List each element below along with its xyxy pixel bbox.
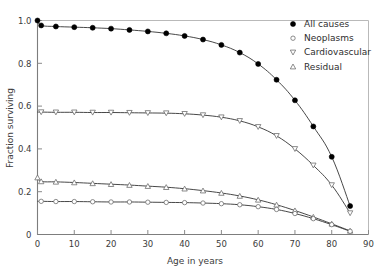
marker-filled-circle xyxy=(53,24,58,29)
x-tick-label: 50 xyxy=(216,239,227,249)
marker-open-circle xyxy=(127,200,131,204)
marker-filled-circle xyxy=(291,22,296,27)
marker-filled-circle xyxy=(127,27,132,32)
marker-open-circle xyxy=(146,200,150,204)
x-tick-label: 60 xyxy=(253,239,264,249)
marker-open-circle xyxy=(311,216,315,220)
x-tick-label: 90 xyxy=(363,239,374,249)
y-tick-label: 0.6 xyxy=(18,101,32,111)
x-tick-label: 40 xyxy=(179,239,190,249)
marker-filled-circle xyxy=(348,204,353,209)
legend-item-label: Cardiovascular xyxy=(304,47,371,57)
marker-open-circle xyxy=(90,200,94,204)
marker-open-circle xyxy=(72,199,76,203)
y-tick-label: 1.0 xyxy=(18,16,32,26)
marker-filled-circle xyxy=(39,23,44,28)
marker-open-circle xyxy=(54,199,58,203)
x-axis-title: Age in years xyxy=(167,256,223,266)
y-tick-label: 0.2 xyxy=(18,187,32,197)
marker-open-circle xyxy=(182,200,186,204)
y-tick-label: 0.4 xyxy=(18,144,32,154)
marker-filled-circle xyxy=(182,33,187,38)
marker-open-circle xyxy=(293,211,297,215)
marker-open-circle xyxy=(219,201,223,205)
marker-filled-circle xyxy=(201,37,206,42)
marker-filled-circle xyxy=(256,61,261,66)
marker-filled-circle xyxy=(35,18,40,23)
x-tick-label: 30 xyxy=(142,239,153,249)
legend-item-label: Residual xyxy=(304,62,342,72)
marker-filled-circle xyxy=(311,124,316,129)
marker-open-circle xyxy=(39,199,43,203)
marker-filled-circle xyxy=(237,50,242,55)
y-tick-label: 0 xyxy=(26,230,31,240)
marker-open-circle xyxy=(256,204,260,208)
legend-item-label: Neoplasms xyxy=(304,33,354,43)
marker-open-circle xyxy=(348,229,352,233)
x-tick-label: 70 xyxy=(290,239,301,249)
marker-open-circle xyxy=(201,201,205,205)
y-tick-label: 0.8 xyxy=(18,59,32,69)
marker-open-circle xyxy=(109,200,113,204)
marker-filled-circle xyxy=(72,25,77,30)
survival-chart: 0102030405060708090 00.20.40.60.81.0 All… xyxy=(0,0,384,272)
plot-area: 0102030405060708090 00.20.40.60.81.0 All… xyxy=(0,0,384,272)
marker-filled-circle xyxy=(90,25,95,30)
marker-open-circle xyxy=(291,36,295,40)
marker-open-circle xyxy=(238,203,242,207)
x-tick-label: 10 xyxy=(69,239,80,249)
legend-item-label: All causes xyxy=(304,19,349,29)
marker-filled-circle xyxy=(145,29,150,34)
x-tick-label: 20 xyxy=(106,239,117,249)
marker-filled-circle xyxy=(109,26,114,31)
marker-open-circle xyxy=(330,222,334,226)
y-axis-title: Fraction surviving xyxy=(5,88,15,168)
marker-filled-circle xyxy=(164,31,169,36)
marker-filled-circle xyxy=(292,98,297,103)
x-tick-label: 80 xyxy=(326,239,337,249)
marker-filled-circle xyxy=(274,77,279,82)
marker-open-circle xyxy=(164,200,168,204)
marker-open-circle xyxy=(274,207,278,211)
x-tick-label: 0 xyxy=(35,239,40,249)
marker-filled-circle xyxy=(219,42,224,47)
marker-filled-circle xyxy=(329,154,334,159)
